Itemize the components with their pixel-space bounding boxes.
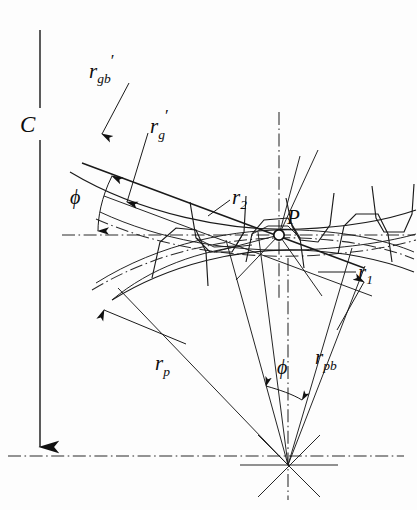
pressure-angle-lower-group: ϕ bbox=[266, 356, 302, 400]
line-of-action-group bbox=[82, 163, 372, 296]
pinion-base-radius-label: rpb bbox=[315, 345, 337, 373]
pressure-angle-lower-label: ϕ bbox=[277, 356, 287, 379]
radius-one-label: r1 bbox=[358, 260, 373, 287]
pinion-tooth-left bbox=[152, 228, 208, 286]
gear-pitch-radius-label: rg′ bbox=[150, 106, 169, 142]
pinion-ray-left-tooth-2 bbox=[258, 232, 288, 465]
pitch-point-marker bbox=[274, 230, 284, 240]
gear-pitch-radius-leader bbox=[127, 133, 148, 202]
pressure-angle-upper-label: ϕ bbox=[70, 186, 80, 209]
pinion-pitch-radius-ray bbox=[118, 288, 288, 465]
radius-two-label: r2 bbox=[232, 185, 247, 212]
pinion-pitch-radius-leader bbox=[104, 310, 186, 344]
gear-mesh-diagram: C bbox=[0, 0, 417, 510]
pinion-base-radius-leader bbox=[337, 282, 364, 330]
center-distance-dimension: C bbox=[20, 30, 40, 447]
radius-two-annotation: r2 bbox=[208, 185, 247, 216]
gear-tooth-far-right bbox=[372, 184, 414, 232]
pitch-point-rays bbox=[214, 150, 322, 296]
figure-root: C bbox=[0, 0, 417, 510]
pinion-base-radius-annotation: rpb bbox=[315, 282, 364, 373]
radius-one-annotation: r1 bbox=[318, 260, 373, 287]
center-distance-label: C bbox=[20, 112, 36, 137]
ray-from-P-down-left bbox=[236, 235, 279, 280]
gear-base-radius-leader bbox=[102, 83, 129, 134]
pinion-pitch-radius-annotation: rp bbox=[104, 310, 186, 379]
gear-base-radius-annotation: rgb′ bbox=[89, 51, 129, 134]
pressure-angle-lower-arc bbox=[266, 386, 302, 400]
gear-base-radius-label: rgb′ bbox=[89, 51, 114, 86]
pitch-point-label: P bbox=[286, 205, 300, 229]
pinion-pitch-radius-label: rp bbox=[155, 351, 170, 379]
